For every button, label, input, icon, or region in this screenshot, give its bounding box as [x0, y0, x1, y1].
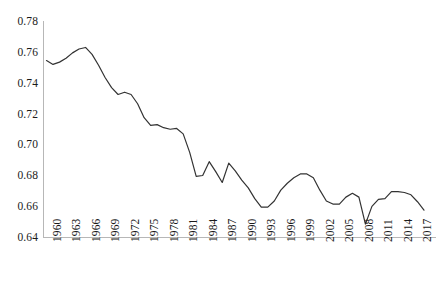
x-axis-tick-label: 1999	[304, 219, 316, 242]
x-axis-tick-label: 2005	[343, 219, 355, 242]
x-axis-tick-label: 1960	[51, 219, 63, 242]
x-axis-tick-label: 1963	[70, 219, 82, 242]
x-axis-tick-label: 2014	[402, 219, 414, 242]
x-axis-tick-label: 2011	[382, 219, 394, 242]
x-axis-tick-label: 2017	[421, 219, 433, 242]
x-axis-tick-labels: 1960196319661969197219751978198119841987…	[0, 0, 441, 281]
x-axis-tick-label: 2008	[363, 219, 375, 242]
x-axis-tick-label: 1972	[129, 219, 141, 242]
x-axis-tick-label: 1996	[285, 219, 297, 242]
x-axis-tick-label: 2002	[324, 219, 336, 242]
x-axis-tick-label: 1987	[226, 219, 238, 242]
x-axis-tick-label: 1978	[168, 219, 180, 242]
x-axis-tick-label: 1969	[109, 219, 121, 242]
x-axis-tick-label: 1990	[246, 219, 258, 242]
x-axis-tick-label: 1975	[148, 219, 160, 242]
x-axis-tick-label: 1966	[90, 219, 102, 242]
x-axis-tick-label: 1984	[207, 219, 219, 242]
line-chart: 0.780.760.740.720.700.680.660.64 1960196…	[0, 0, 441, 281]
x-axis-tick-label: 1993	[265, 219, 277, 242]
x-axis-tick-label: 1981	[187, 219, 199, 242]
